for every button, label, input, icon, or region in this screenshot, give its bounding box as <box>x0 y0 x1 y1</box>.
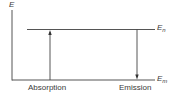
energy-axis-label: E <box>9 1 14 9</box>
lower-level-subscript: m <box>162 78 167 84</box>
absorption-label: Absorption <box>28 84 66 92</box>
energy-level-diagram: E En Em Absorption Emission <box>0 0 178 100</box>
lower-level-label: Em <box>157 75 167 83</box>
upper-level-subscript: n <box>162 27 165 33</box>
upper-level-label: En <box>157 24 166 32</box>
emission-arrow <box>135 30 138 80</box>
emission-label: Emission <box>119 84 151 92</box>
absorption-arrow <box>48 30 51 80</box>
